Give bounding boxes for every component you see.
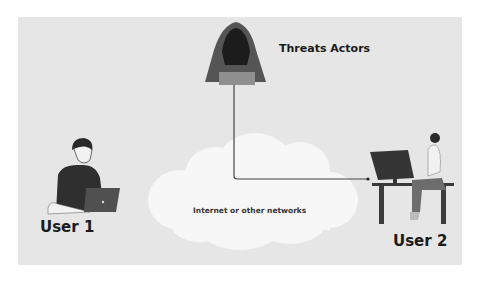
- person-desk-computer-icon: [370, 133, 454, 224]
- hooded-hacker-icon: [205, 22, 266, 85]
- threat-actors-label: Threats Actors: [279, 42, 370, 55]
- cloud-icon: [148, 133, 358, 250]
- user-2-label: User 2: [393, 232, 447, 250]
- network-label: Internet or other networks: [193, 206, 306, 215]
- user-1-label: User 1: [40, 218, 94, 236]
- person-laptop-icon: [48, 138, 120, 214]
